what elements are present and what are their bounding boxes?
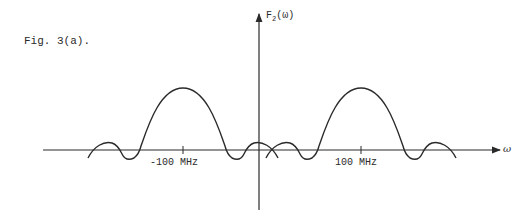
spectrum-diagram [0, 0, 529, 221]
x-axis-label: ω [503, 143, 511, 154]
tick-label-neg-100: -100 MHz [150, 157, 198, 168]
y-axis-label: F2(ω) [266, 10, 294, 23]
tick-label-pos-100: 100 MHz [335, 157, 377, 168]
figure-caption: Fig. 3(a). [24, 35, 90, 47]
spectrum-lobe-right-main [319, 88, 456, 159]
